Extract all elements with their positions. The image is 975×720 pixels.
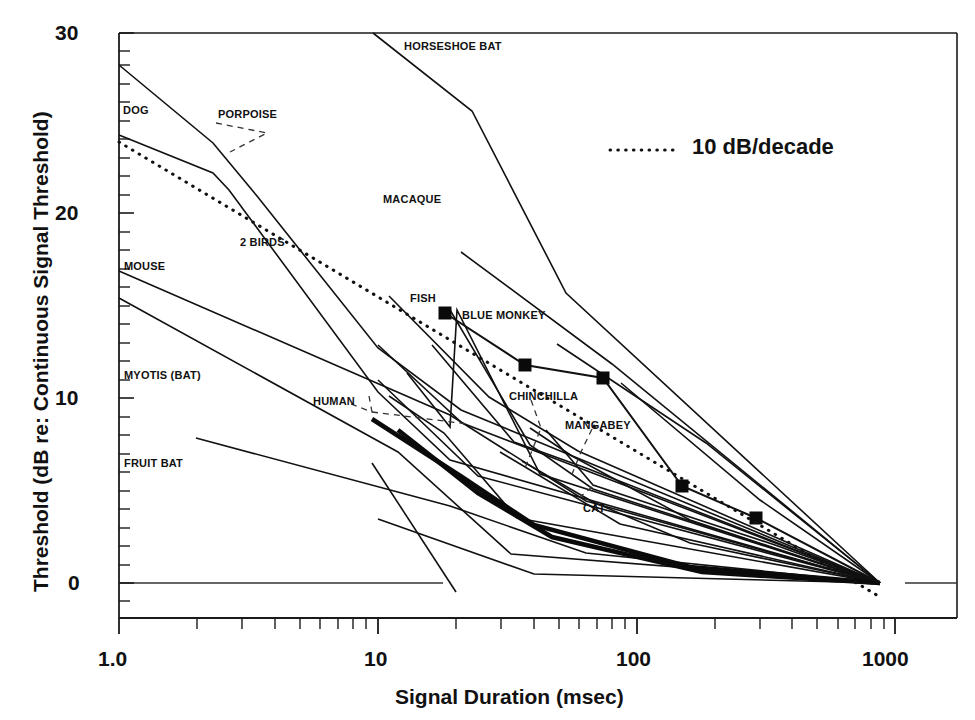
x-axis-title: Signal Duration (msec)	[395, 686, 624, 707]
y-tick-label-10: 10	[55, 387, 78, 408]
curve-label-porpoise: PORPOISE	[218, 109, 277, 120]
curve-label-mangabey: MANGABEY	[565, 420, 631, 431]
x-tick-label-1000: 1000	[862, 648, 909, 669]
y-tick-label-20: 20	[55, 202, 78, 223]
curve-label-mouse: MOUSE	[124, 261, 165, 272]
figure-container: 30 20 10 0 1.0 10 100 1000 Signal Durati…	[0, 0, 975, 720]
curve-label-horseshoe-bat: HORSESHOE BAT	[404, 41, 502, 52]
leader-porpoise	[216, 123, 267, 152]
curve-label-chinchilla: CHINCHILLA	[509, 391, 578, 402]
x-tick-label-1: 1.0	[98, 648, 127, 669]
y-tick-label-30: 30	[55, 22, 78, 43]
curve-label-fruit-bat: FRUIT BAT	[124, 458, 183, 469]
curve-chinchilla	[450, 310, 880, 583]
curve-2-birds-a	[389, 296, 880, 583]
curve-unlabeled-steep	[372, 463, 456, 592]
curve-label-dog: DOG	[123, 105, 149, 116]
data-marker	[439, 307, 451, 319]
y-ticks	[119, 33, 134, 601]
x-tick-label-100: 100	[616, 648, 651, 669]
y-axis-title: Threshold (dB re: Continuous Signal Thre…	[30, 111, 51, 592]
curve-label-cat: CAT	[583, 503, 605, 514]
curve-label-2-birds: 2 BIRDS	[240, 237, 285, 248]
curve-label-fish: FISH	[410, 293, 436, 304]
curve-label-blue-monkey: BLUE MONKEY	[462, 310, 545, 321]
reference-line-10db-decade	[119, 142, 880, 597]
legend-label-10db-decade: 10 dB/decade	[692, 136, 834, 158]
y-tick-label-0: 0	[68, 572, 80, 593]
curve-label-macaque: MACAQUE	[383, 194, 441, 205]
curve-label-myotis-bat: MYOTIS (BAT)	[124, 370, 201, 381]
data-marker	[597, 372, 609, 384]
leader-chinchilla	[525, 400, 541, 468]
curve-blue-monkey	[445, 313, 880, 583]
x-tick-label-10: 10	[364, 648, 387, 669]
curve-porpoise	[119, 135, 880, 583]
data-marker	[519, 359, 531, 371]
curve-myotis-bat	[119, 298, 880, 583]
x-ticks	[119, 618, 895, 634]
data-marker	[676, 480, 688, 492]
curve-label-human: HUMAN	[313, 396, 355, 407]
curve-fish	[407, 310, 880, 583]
